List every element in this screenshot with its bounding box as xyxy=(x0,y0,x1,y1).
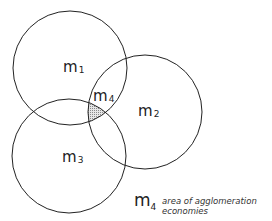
legend-symbol-text: m xyxy=(134,190,151,210)
label-m1: m1 xyxy=(63,60,84,75)
venn-diagram xyxy=(0,0,272,221)
label-m1-text: m xyxy=(63,58,78,76)
label-m2-sub: 2 xyxy=(154,109,160,119)
legend-symbol-sub: 4 xyxy=(151,202,157,212)
label-m3-text: m xyxy=(62,148,77,166)
label-m3: m3 xyxy=(62,150,83,165)
legend-line-2: economies xyxy=(162,206,257,216)
legend-description: area of agglomeration economies xyxy=(162,196,257,216)
label-m1-sub: 1 xyxy=(79,65,85,75)
legend-symbol: m4 xyxy=(134,192,156,212)
label-m4: m4 xyxy=(93,89,114,104)
label-m4-sub: 4 xyxy=(109,94,115,104)
label-m2: m2 xyxy=(138,104,159,119)
label-m4-text: m xyxy=(93,87,108,105)
label-m3-sub: 3 xyxy=(78,155,84,165)
legend-line-1: area of agglomeration xyxy=(162,196,257,206)
label-m2-text: m xyxy=(138,102,153,120)
